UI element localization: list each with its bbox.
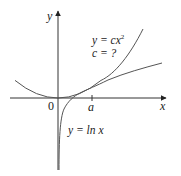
ln-curve [59, 63, 162, 170]
parabola-equation-lhs: y = c [91, 34, 116, 47]
y-axis-label: y [46, 9, 53, 23]
constant-note: c = ? [92, 47, 117, 59]
x-axis-label: x [159, 99, 166, 113]
figure-canvas: y x 0 a y = cx2 c = ? y = ln x [0, 0, 181, 176]
ln-equation: y = ln x [67, 124, 104, 137]
parabola-equation: y = cx2 [91, 33, 125, 47]
parabola-equation-exponent: 2 [121, 33, 125, 41]
origin-label: 0 [48, 99, 54, 113]
tick-a-label: a [88, 100, 94, 114]
